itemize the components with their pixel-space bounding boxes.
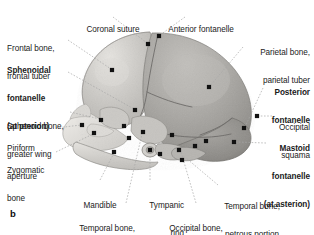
marker-extra-mastoid <box>180 158 184 162</box>
label-zygomatic-bone: Zygomatic bone <box>7 147 69 222</box>
marker-temporal-squamous <box>141 130 145 134</box>
marker-frontal-tuber <box>110 68 114 72</box>
marker-zygomatic-bone <box>92 131 96 135</box>
marker-mandible <box>112 150 116 154</box>
marker-sphenoidal-fontanelle <box>133 108 137 112</box>
marker-temporal-petrous <box>158 152 162 156</box>
marker-sphenoid-greater-wing <box>99 118 103 122</box>
marker-parietal-tuber <box>207 85 211 89</box>
marker-extra-face <box>122 124 126 128</box>
label-coronal-suture: Coronal suture <box>70 6 156 53</box>
marker-extra-occipital <box>204 139 208 143</box>
label-mastoid-fontanelle: Mastoid fontanelle (at asterion) <box>234 125 310 228</box>
marker-extra-parietal <box>170 133 174 137</box>
marker-extra-temporal <box>127 136 131 140</box>
label-temporal-bone-squamous: Temporal bone, squamous part <box>62 205 152 235</box>
marker-tympanic-ring <box>148 148 152 152</box>
panel-label: b <box>10 208 16 219</box>
figure-panel-neonatal-skull: Coronal suture Anterior fontanelle Front… <box>0 0 314 235</box>
marker-occipital-lateral-2 <box>193 144 197 148</box>
marker-occipital-lateral <box>177 148 181 152</box>
